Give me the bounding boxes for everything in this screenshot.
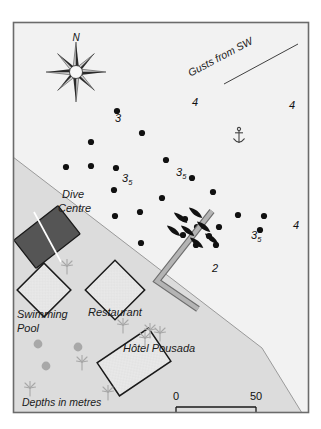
sounding-dot [113,165,119,171]
dive-centre-label-line2: Centre [58,202,91,214]
sounding-dot [180,232,186,238]
sounding-dot [63,164,69,170]
sounding-dot [257,227,263,233]
swimming-pool-label-line1: Swimming [17,308,69,320]
depth-value: 4 [192,96,198,108]
bush-icon [34,340,43,349]
sounding-dot [159,195,165,201]
depth-value: 2 [211,262,218,274]
sounding-dot [138,240,144,246]
depths-legend-label: Depths in metres [22,396,102,408]
compass-north-label: N [72,32,80,43]
sounding-dot [210,189,216,195]
bush-icon [74,343,83,352]
depth-value: 4 [293,219,299,231]
restaurant-label: Restaurant [88,306,143,318]
sounding-dot [261,213,267,219]
sounding-dot [216,224,222,230]
sounding-dot [163,157,169,163]
sounding-dot [112,213,118,219]
nautical-map: N Gusts from SW 34435353542 [0,0,321,429]
bush-icon [42,362,51,371]
sounding-dot [139,130,145,136]
scale-start-label: 0 [173,390,179,402]
depth-value: 4 [289,99,295,111]
sounding-dot [88,163,94,169]
sounding-dot [137,209,143,215]
sounding-dot [88,139,94,145]
dive-centre-label-line1: Dive [62,188,84,200]
swimming-pool-label-line2: Pool [17,322,40,334]
hotel-pousada-label: Hôtel Pousada [123,342,195,354]
sounding-dot [111,187,117,193]
scale-end-label: 50 [250,390,262,402]
sounding-dot [189,175,195,181]
depth-value: 3 [115,112,122,124]
sounding-dot [235,212,241,218]
map-canvas: N Gusts from SW 34435353542 [0,0,321,429]
